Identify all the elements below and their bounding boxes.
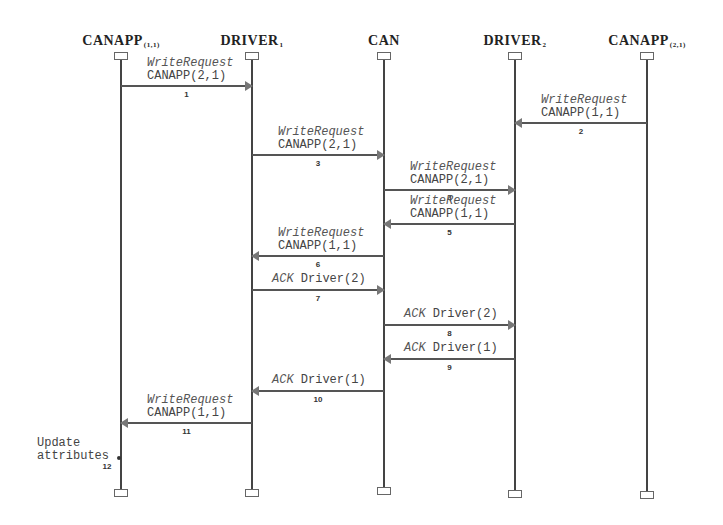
actor-name: DRIVER xyxy=(220,33,278,48)
lifeline-top-box xyxy=(245,52,259,60)
message-arg: Driver(2) xyxy=(294,272,366,286)
message-arrow-4 xyxy=(384,189,515,191)
message-arrow-9 xyxy=(384,358,515,360)
arrowhead-icon xyxy=(508,185,516,195)
lifeline xyxy=(646,60,648,491)
message-arg: Driver(1) xyxy=(294,373,366,387)
lifeline-bottom-box xyxy=(640,491,654,499)
arrowhead-icon xyxy=(120,418,128,428)
message-arg: CANAPP(2,1) xyxy=(410,174,496,187)
lifeline-top-box xyxy=(114,52,128,60)
arrowhead-icon xyxy=(377,150,385,160)
message-number: 11 xyxy=(182,427,190,436)
message-arg: CANAPP(2,1) xyxy=(278,139,364,152)
message-arrow-10 xyxy=(252,390,384,392)
message-label: WriteRequestCANAPP(1,1) xyxy=(278,227,364,253)
arrowhead-icon xyxy=(383,354,391,364)
message-kind: ACK xyxy=(272,272,294,286)
message-arrow-2 xyxy=(515,122,647,124)
message-number: 3 xyxy=(316,159,320,168)
lifeline-bottom-box xyxy=(114,489,128,497)
actor-name: CAN xyxy=(368,33,400,48)
message-number: 7 xyxy=(316,294,320,303)
actor-name: CANAPP xyxy=(608,33,669,48)
arrowhead-icon xyxy=(245,81,253,91)
arrowhead-icon xyxy=(383,219,391,229)
message-label: WriteRequestCANAPP(2,1) xyxy=(410,161,496,187)
arrowhead-icon xyxy=(377,285,385,295)
message-kind: ACK xyxy=(404,307,426,321)
lifeline-top-box xyxy=(377,52,391,60)
message-kind: ACK xyxy=(404,341,426,355)
message-label: WriteRequestCANAPP(2,1) xyxy=(147,57,233,83)
message-label: WriteRequestCANAPP(2,1) xyxy=(278,126,364,152)
actor-subscript: (1,1) xyxy=(144,41,160,49)
arrowhead-icon xyxy=(514,118,522,128)
message-arg: CANAPP(1,1) xyxy=(410,208,496,221)
message-arg: CANAPP(1,1) xyxy=(147,407,233,420)
message-number: 9 xyxy=(447,363,451,372)
arrowhead-icon xyxy=(508,320,516,330)
message-arrow-6 xyxy=(252,255,384,257)
actor-header: CANAPP(1,1) xyxy=(82,33,159,49)
message-arrow-8 xyxy=(384,324,515,326)
message-arg: CANAPP(2,1) xyxy=(147,70,233,83)
message-label: WriteRequestCANAPP(1,1) xyxy=(147,394,233,420)
actor-header: DRIVER1 xyxy=(220,33,283,49)
message-label: ACK Driver(2) xyxy=(272,273,366,286)
message-arg: CANAPP(1,1) xyxy=(541,107,627,120)
message-number: 1 xyxy=(184,90,188,99)
actor-name: DRIVER xyxy=(483,33,541,48)
message-number: 2 xyxy=(579,127,583,136)
message-arg: CANAPP(1,1) xyxy=(278,240,364,253)
message-label: WriteRequestCANAPP(1,1) xyxy=(541,94,627,120)
message-label: ACK Driver(2) xyxy=(404,308,498,321)
message-arrow-7 xyxy=(252,289,384,291)
message-number: 8 xyxy=(447,329,451,338)
actor-header: CANAPP(2,1) xyxy=(608,33,685,49)
message-arg: Driver(2) xyxy=(426,307,498,321)
lifeline-bottom-box xyxy=(377,487,391,495)
message-arrow-11 xyxy=(121,422,252,424)
message-number: 5 xyxy=(447,228,451,237)
message-arg: Driver(1) xyxy=(426,341,498,355)
message-arrow-5 xyxy=(384,223,515,225)
actor-header: CAN xyxy=(368,33,400,49)
message-arrow-1 xyxy=(121,85,252,87)
actor-subscript: 2 xyxy=(543,41,547,49)
lifeline xyxy=(383,60,385,487)
arrowhead-icon xyxy=(251,386,259,396)
actor-subscript: (2,1) xyxy=(670,41,686,49)
lifeline-bottom-box xyxy=(508,490,522,498)
message-number: 10 xyxy=(314,395,323,404)
message-label: ACK Driver(1) xyxy=(404,342,498,355)
message-number: 6 xyxy=(316,260,320,269)
lifeline-top-box xyxy=(508,52,522,60)
note-number: 12 xyxy=(103,462,112,471)
lifeline-bottom-box xyxy=(245,489,259,497)
activation-dot xyxy=(117,456,121,460)
actor-name: CANAPP xyxy=(82,33,143,48)
lifeline-top-box xyxy=(640,52,654,60)
arrowhead-icon xyxy=(251,251,259,261)
message-arrow-3 xyxy=(252,154,384,156)
update-attributes-note: Update attributes xyxy=(37,437,109,463)
message-label: ACK Driver(1) xyxy=(272,374,366,387)
actor-subscript: 1 xyxy=(280,41,284,49)
message-label: WriteRequestCANAPP(1,1) xyxy=(410,195,496,221)
message-kind: ACK xyxy=(272,373,294,387)
actor-header: DRIVER2 xyxy=(483,33,546,49)
lifeline xyxy=(251,60,253,489)
